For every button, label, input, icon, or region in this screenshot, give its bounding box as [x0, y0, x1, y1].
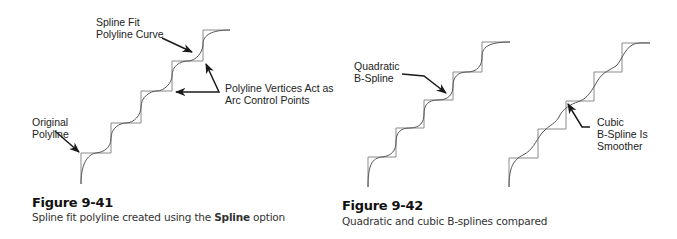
label-quadratic-b-spline: Quadratic B-Spline [354, 60, 400, 84]
arrow-cubic [568, 104, 590, 127]
cubic-b-spline-curve [509, 43, 650, 187]
arrows-9-41 [55, 38, 219, 152]
label-line: Original [32, 116, 69, 128]
figure-9-41-caption: Spline fit polyline created using the Sp… [32, 211, 285, 223]
label-line: Spline Fit [96, 16, 164, 28]
spline-fit-curve-9-41 [81, 30, 230, 184]
label-polyline-vertices: Polyline Vertices Act as Arc Control Poi… [225, 82, 334, 106]
vertices-arrow-icon [176, 64, 219, 92]
figure-9-42-caption: Quadratic and cubic B-splines compared [342, 215, 547, 227]
label-cubic-b-spline: Cubic B-Spline Is Smoother [597, 116, 648, 152]
label-line: Cubic [597, 116, 648, 128]
original-polyline-9-41 [81, 30, 230, 184]
figure-9-41-title: Figure 9-41 [32, 195, 113, 210]
arrow-quadratic [402, 74, 446, 93]
figure-9-42-title: Figure 9-42 [342, 198, 423, 213]
label-line: Polyline Vertices Act as [225, 82, 334, 94]
label-line: Polyline [32, 128, 69, 140]
label-original-polyline: Original Polyline [32, 116, 69, 140]
caption-text: Spline fit polyline created using the [32, 211, 214, 223]
caption-text: option [250, 211, 285, 223]
label-line: B-Spline Is [597, 128, 648, 140]
spline-fit-arrow-icon [162, 38, 192, 52]
quadratic-arrow-icon [402, 74, 446, 93]
label-spline-fit: Spline Fit Polyline Curve [96, 16, 164, 40]
cubic-polyline [509, 43, 650, 187]
cubic-arrow-icon [568, 104, 590, 127]
label-line: Smoother [597, 140, 648, 152]
label-line: B-Spline [354, 72, 400, 84]
label-line: Polyline Curve [96, 28, 164, 40]
label-line: Arc Control Points [225, 94, 334, 106]
caption-bold-option: Spline [214, 211, 250, 223]
label-line: Quadratic [354, 60, 400, 72]
